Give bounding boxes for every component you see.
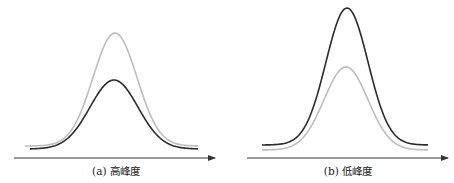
kurtosis-comparison-figure	[0, 0, 454, 183]
panel-high-kurtosis	[14, 33, 215, 158]
caption-high-kurtosis: (a) 高峰度	[66, 163, 166, 179]
caption-low-kurtosis: (b) 低峰度	[298, 163, 398, 179]
reference-distribution-curve	[25, 33, 198, 146]
panel-low-kurtosis	[247, 8, 448, 158]
low-kurtosis-curve	[262, 8, 428, 145]
high-kurtosis-curve	[30, 80, 198, 149]
reference-distribution-curve	[262, 67, 428, 150]
